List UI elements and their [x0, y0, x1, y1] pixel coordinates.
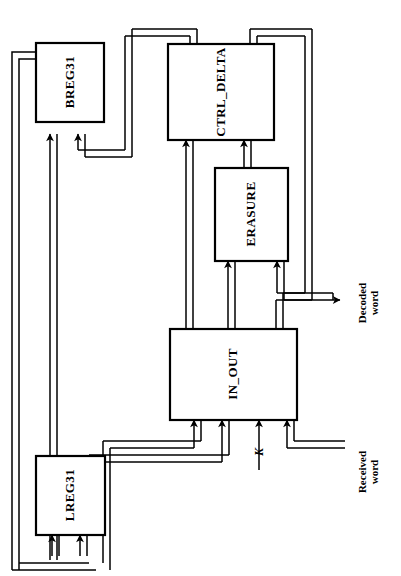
diagram-wiring [0, 0, 401, 576]
received-word-line1: Received [356, 451, 368, 493]
diagram-canvas: BREG31 CTRL_DELTA ERASURE IN_OUT LREG31 … [0, 0, 401, 576]
decoded-word-line2: word [368, 291, 380, 315]
received-word-line2: word [368, 460, 380, 484]
decoded-word-label: Decoded word [356, 283, 381, 323]
k-signal-label: K [252, 448, 267, 456]
decoded-word-line1: Decoded [356, 283, 368, 323]
received-word-label: Received word [356, 451, 381, 493]
